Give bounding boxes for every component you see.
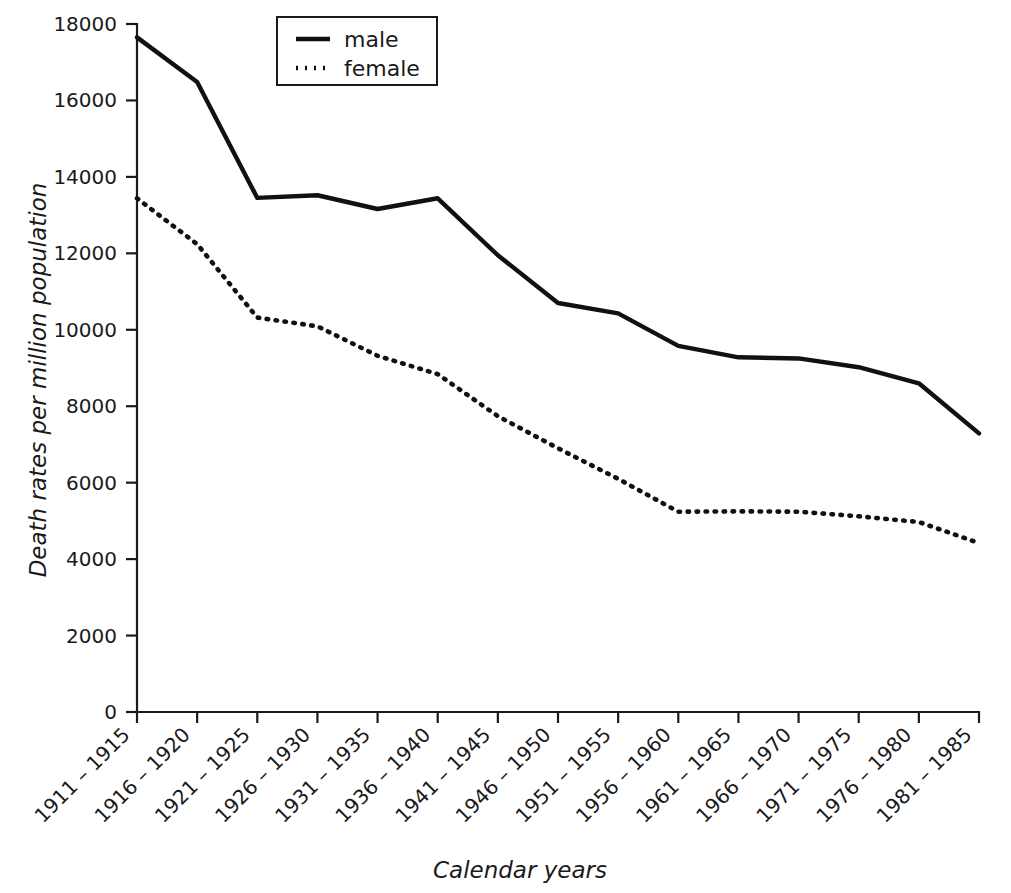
series-line-female [137, 198, 979, 543]
x-tick-labels: 1911 – 19151916 – 19201921 – 19251926 – … [30, 723, 977, 828]
y-tick-label: 0 [104, 700, 117, 724]
y-axis-title: Death rates per million population [25, 183, 51, 578]
x-tick-marks [137, 712, 979, 723]
y-tick-label: 6000 [66, 471, 117, 495]
chart-container: 0200040006000800010000120001400016000180… [0, 0, 1011, 893]
legend-label-male: male [344, 27, 399, 52]
line-chart: 0200040006000800010000120001400016000180… [0, 0, 1011, 893]
y-tick-label: 2000 [66, 624, 117, 648]
y-tick-label: 8000 [66, 394, 117, 418]
y-axis: 0200040006000800010000120001400016000180… [53, 12, 137, 724]
y-tick-label: 10000 [53, 318, 117, 342]
series-line-male [137, 37, 979, 433]
x-axis-title: Calendar years [433, 857, 607, 883]
legend-label-female: female [344, 56, 420, 81]
y-tick-label: 4000 [66, 547, 117, 571]
x-axis: 1911 – 19151916 – 19201921 – 19251926 – … [30, 712, 979, 828]
y-tick-label: 14000 [53, 165, 117, 189]
legend: male female [277, 17, 437, 85]
y-tick-label: 18000 [53, 12, 117, 36]
y-tick-marks [126, 24, 137, 712]
y-tick-label: 16000 [53, 88, 117, 112]
y-tick-labels: 0200040006000800010000120001400016000180… [53, 12, 117, 724]
data-series-group [137, 37, 979, 543]
y-tick-label: 12000 [53, 241, 117, 265]
